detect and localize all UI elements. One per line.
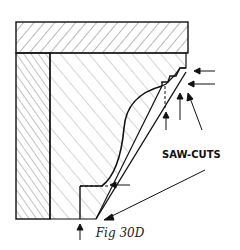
saw-cuts-label: SAW-CUTS — [162, 149, 221, 160]
figure-caption: Fig 30D — [0, 226, 240, 240]
left-board — [16, 53, 50, 219]
saw-cut-diagram: SAW-CUTS — [0, 0, 240, 250]
moulding-block — [50, 53, 186, 219]
top-board — [16, 22, 188, 53]
